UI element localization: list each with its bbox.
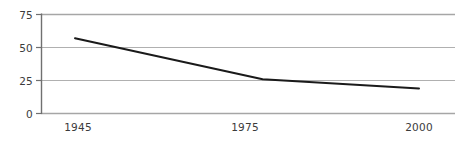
y-axis-tick-labels: 75 50 25 0 bbox=[19, 9, 33, 120]
y-tick-label-0: 0 bbox=[26, 108, 33, 120]
x-tick-label-2000: 2000 bbox=[405, 121, 433, 133]
y-tick-label-25: 25 bbox=[19, 75, 33, 87]
x-tick-label-1945: 1945 bbox=[64, 121, 92, 133]
y-tick-label-50: 50 bbox=[19, 42, 33, 54]
x-tick-label-1975: 1975 bbox=[231, 121, 259, 133]
y-tick-label-75: 75 bbox=[19, 9, 33, 21]
line-chart-figure: 75 50 25 0 1945 1975 2000 bbox=[0, 0, 474, 142]
gridlines bbox=[41, 15, 455, 114]
chart-canvas: 75 50 25 0 1945 1975 2000 bbox=[0, 0, 474, 142]
y-axis-ticks bbox=[36, 15, 42, 114]
x-axis-tick-labels: 1945 1975 2000 bbox=[64, 121, 433, 133]
